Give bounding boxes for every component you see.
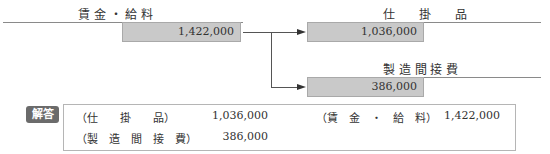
answer-row2-debit-account: （製 造 間 接 費） <box>76 130 197 146</box>
overhead-account-title: 製 造 間 接 費 <box>383 60 458 77</box>
arrow-line-to-overhead <box>271 87 297 88</box>
overhead-amount-box: 386,000 <box>307 77 424 97</box>
source-amount-box: 1,422,000 <box>122 22 241 42</box>
arrowhead-icon <box>297 29 306 35</box>
branch-line <box>271 32 272 87</box>
answer-row1-debit-amount: 1,036,000 <box>200 109 268 122</box>
arrow-line-to-wip <box>243 32 297 33</box>
answer-row1-credit-amount: 1,422,000 <box>434 109 500 122</box>
answer-row1-debit-account: （仕 掛 品） <box>76 109 175 125</box>
answer-row2-debit-amount: 386,000 <box>200 130 268 143</box>
answer-badge: 解答 <box>26 106 59 123</box>
wip-amount-box: 1,036,000 <box>307 22 424 42</box>
source-account-title: 賃 金 ・ 給 料 <box>78 5 153 22</box>
arrowhead-icon <box>297 84 306 90</box>
answer-row1-credit-account: （賃 金 ・ 給 料） <box>316 109 437 125</box>
wip-account-title: 仕 掛 品 <box>383 5 467 22</box>
